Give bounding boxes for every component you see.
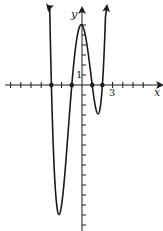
x-tick-label: 3 — [109, 87, 115, 98]
y-tick-label: 1 — [76, 69, 82, 80]
polynomial-graph: y x 1 3 — [0, 0, 163, 231]
polynomial-curve — [50, 5, 106, 214]
right-arrow — [105, 8, 106, 17]
left-arrow — [49, 5, 50, 8]
y-axis-label: y — [70, 8, 78, 21]
y-ticks — [82, 25, 86, 225]
x-axis-label: x — [154, 86, 161, 99]
